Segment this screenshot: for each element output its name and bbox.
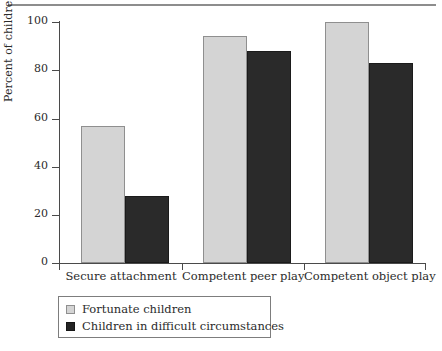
bar-competent-object-play-difficult (369, 63, 413, 263)
x-axis-line (59, 263, 426, 264)
legend-label-0: Fortunate children (82, 302, 191, 316)
legend-item-fortunate-children: Fortunate children (66, 300, 191, 318)
y-tick-label-20: 20 (34, 207, 52, 220)
y-tick-label-60: 60 (34, 111, 52, 124)
y-tick-100: 100 (52, 22, 59, 23)
y-axis-title: Percent of children (2, 0, 22, 102)
y-tick-label-40: 40 (34, 159, 52, 172)
bars-layer (60, 22, 426, 263)
bar-competent-object-play-fortunate (325, 22, 369, 263)
y-tick-80: 80 (52, 70, 59, 71)
bar-competent-peer-play-difficult (247, 51, 291, 263)
y-tick-0: 0 (52, 263, 59, 264)
bar-secure-attachment-fortunate (81, 126, 125, 263)
x-category-label-1: Competent peer play (182, 269, 304, 283)
y-tick-20: 20 (52, 215, 59, 216)
y-tick-label-80: 80 (34, 62, 52, 75)
y-tick-label-100: 100 (27, 14, 52, 27)
bar-chart-figure: Percent of children 0 20 40 60 80 100 Se… (0, 0, 442, 351)
legend-label-1: Children in difficult circumstances (82, 319, 284, 333)
x-category-label-2: Competent object play (304, 269, 426, 283)
y-tick-40: 40 (52, 167, 59, 168)
x-category-label-0: Secure attachment (60, 269, 182, 283)
bar-competent-peer-play-fortunate (203, 36, 247, 263)
y-tick-label-0: 0 (41, 255, 52, 268)
bar-secure-attachment-difficult (125, 196, 169, 263)
y-tick-60: 60 (52, 119, 59, 120)
header-divider (8, 4, 436, 6)
dark-swatch-icon (66, 322, 75, 331)
legend-item-children-difficult-circumstances: Children in difficult circumstances (66, 317, 284, 335)
light-gray-swatch-icon (66, 305, 75, 314)
legend: Fortunate children Children in difficult… (58, 296, 271, 338)
